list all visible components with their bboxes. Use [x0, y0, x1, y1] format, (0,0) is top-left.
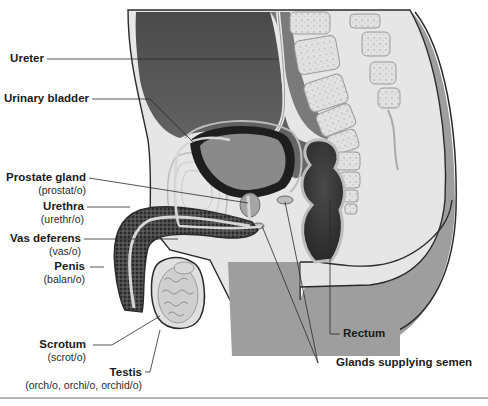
- label-prostate-gland-root: (prostat/o): [0, 184, 86, 197]
- label-urethra-root: (urethr/o): [0, 213, 84, 226]
- label-penis-name: Penis: [0, 260, 85, 273]
- label-glands-supplying-semen-name: Glands supplying semen: [336, 356, 472, 369]
- label-urethra: Urethra (urethr/o): [0, 200, 84, 226]
- scrotum-testis: [151, 258, 204, 329]
- label-rectum-name: Rectum: [343, 327, 385, 340]
- label-glands-supplying-semen: Glands supplying semen: [336, 356, 472, 369]
- label-scrotum-root: (scrot/o): [0, 351, 86, 364]
- label-rectum: Rectum: [343, 327, 385, 340]
- label-vas-deferens: Vas deferens (vas/o): [0, 232, 81, 258]
- label-urinary-bladder: Urinary bladder: [0, 92, 89, 105]
- bottom-divider: [0, 397, 488, 399]
- label-scrotum-name: Scrotum: [0, 338, 86, 351]
- label-penis-root: (balan/o): [0, 273, 85, 286]
- label-scrotum: Scrotum (scrot/o): [0, 338, 86, 364]
- label-ureter-name: Ureter: [0, 52, 44, 65]
- label-testis-name: Testis: [10, 366, 142, 379]
- label-vas-deferens-name: Vas deferens: [0, 232, 81, 245]
- label-penis: Penis (balan/o): [0, 260, 85, 286]
- label-testis-root: (orch/o, orchi/o, orchid/o): [10, 379, 142, 392]
- label-ureter: Ureter: [0, 52, 44, 65]
- label-urethra-name: Urethra: [0, 200, 84, 213]
- label-prostate-gland: Prostate gland (prostat/o): [0, 171, 86, 197]
- label-vas-deferens-root: (vas/o): [0, 245, 81, 258]
- label-urinary-bladder-name: Urinary bladder: [0, 92, 89, 105]
- label-testis: Testis (orch/o, orchi/o, orchid/o): [10, 366, 142, 392]
- label-prostate-gland-name: Prostate gland: [0, 171, 86, 184]
- rectum: [302, 140, 345, 262]
